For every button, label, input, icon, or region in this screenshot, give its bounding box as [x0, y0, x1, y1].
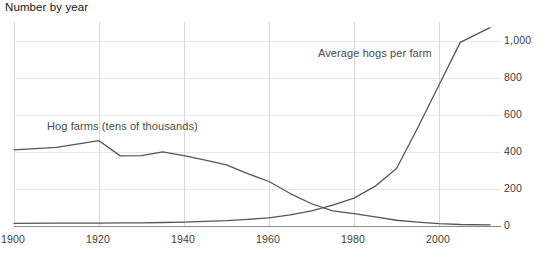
- y-tick-label: 0: [504, 219, 510, 231]
- y-tick-label: 200: [504, 182, 522, 194]
- y-tick-label: 400: [504, 145, 522, 157]
- chart-title: Number by year: [5, 1, 88, 13]
- y-tick-mark: [490, 115, 501, 116]
- x-tick-label: 1960: [256, 233, 280, 245]
- x-tick-label: 1920: [86, 233, 110, 245]
- chart-container: Number by year 02004006008001,000 190019…: [0, 0, 556, 256]
- y-tick-mark: [490, 189, 501, 190]
- x-tick-label: 1940: [171, 233, 195, 245]
- y-tick-mark: [490, 78, 501, 79]
- y-tick-label: 1,000: [504, 34, 531, 46]
- x-tick-label: 1900: [1, 233, 25, 245]
- y-tick-label: 800: [504, 71, 522, 83]
- y-tick-label: 600: [504, 108, 522, 120]
- x-tick-label: 1980: [341, 233, 365, 245]
- y-tick-mark: [490, 226, 501, 227]
- series-label-hog-farms: Hog farms (tens of thousands): [47, 120, 198, 132]
- series-label-average-hogs-per-farm: Average hogs per farm: [318, 47, 432, 59]
- y-tick-mark: [490, 41, 501, 42]
- series-line-hog-farms: [14, 141, 490, 225]
- x-tick-label: 2000: [426, 233, 450, 245]
- y-tick-mark: [490, 152, 501, 153]
